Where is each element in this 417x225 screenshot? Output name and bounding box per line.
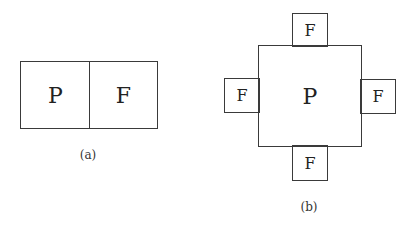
figure-a-caption: (a) (80, 148, 97, 162)
figure-a-p-box: P (20, 61, 90, 129)
figure-b-top-f-box: F (292, 13, 328, 47)
figure-a-f-box: F (89, 61, 158, 129)
f-label: F (372, 87, 383, 106)
p-label: P (303, 84, 318, 109)
figure-b-caption: (b) (300, 200, 317, 214)
f-label: F (304, 154, 315, 173)
f-label: F (236, 86, 247, 105)
figure-b-left-f-box: F (224, 78, 260, 113)
p-label: P (48, 83, 63, 108)
figure-b-p-box: P (258, 45, 362, 147)
figure-b-bottom-f-box: F (292, 145, 328, 181)
f-label: F (304, 21, 315, 40)
f-label: F (116, 83, 131, 108)
figure-b-right-f-box: F (360, 79, 396, 114)
